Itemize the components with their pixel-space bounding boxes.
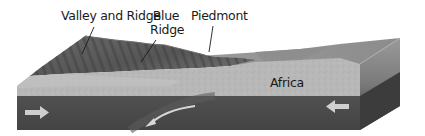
piedmont-leader-line — [209, 26, 213, 52]
blue-ridge-label-line1: Blue — [150, 9, 182, 23]
valley-and-ridge-label: Valley and Ridge — [61, 9, 161, 23]
mantle-layer — [17, 96, 360, 130]
blue-ridge-label: Blue Ridge — [150, 9, 182, 37]
piedmont-label: Piedmont — [191, 9, 248, 23]
africa-label: Africa — [270, 76, 304, 90]
blue-ridge-label-line2: Ridge — [150, 23, 182, 37]
block-diagram: Valley and Ridge Blue Ridge Piedmont Afr… — [0, 0, 425, 136]
